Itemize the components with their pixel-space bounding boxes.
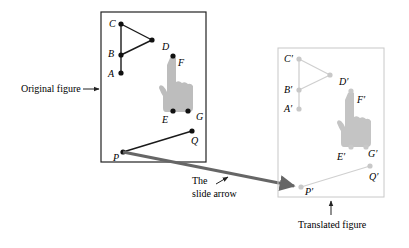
slide-arrow-caption-line2: slide arrow bbox=[192, 188, 237, 199]
slide-caption-pointer-icon bbox=[216, 177, 228, 184]
label-E-prime: E′ bbox=[336, 151, 346, 162]
translated-hand-icon bbox=[337, 92, 371, 148]
label-G-prime: G′ bbox=[368, 148, 378, 159]
label-G: G bbox=[196, 111, 203, 122]
label-D: D bbox=[161, 41, 170, 52]
original-hand-icon bbox=[159, 57, 193, 113]
translated-segment-pq bbox=[301, 166, 370, 187]
slide-arrow-caption-line1: The bbox=[192, 175, 208, 186]
translation-diagram: C D B A F E G Q P Original figure The sl… bbox=[0, 0, 409, 248]
label-Q-prime: Q′ bbox=[369, 171, 379, 182]
original-figure-caption: Original figure bbox=[21, 83, 81, 94]
label-P-prime: P′ bbox=[304, 186, 314, 197]
original-segment-pq bbox=[123, 131, 192, 152]
label-P: P bbox=[112, 152, 119, 163]
label-D-prime: D′ bbox=[338, 76, 349, 87]
label-C-prime: C′ bbox=[284, 53, 294, 64]
label-B: B bbox=[108, 48, 114, 59]
label-A: A bbox=[107, 68, 115, 79]
label-Q: Q bbox=[191, 135, 199, 146]
translated-figure: C′ D′ B′ A′ F′ E′ G′ Q′ P′ bbox=[278, 48, 384, 197]
label-F-prime: F′ bbox=[356, 94, 366, 105]
label-E: E bbox=[161, 114, 168, 125]
label-A-prime: A′ bbox=[283, 103, 293, 114]
slide-arrow bbox=[123, 152, 294, 186]
original-triangle bbox=[121, 24, 152, 73]
translated-figure-caption: Translated figure bbox=[298, 219, 367, 230]
translated-triangle bbox=[299, 59, 330, 109]
original-figure: C D B A F E G Q P bbox=[101, 12, 206, 163]
label-B-prime: B′ bbox=[284, 84, 293, 95]
label-C: C bbox=[109, 18, 116, 29]
label-F: F bbox=[177, 57, 185, 68]
